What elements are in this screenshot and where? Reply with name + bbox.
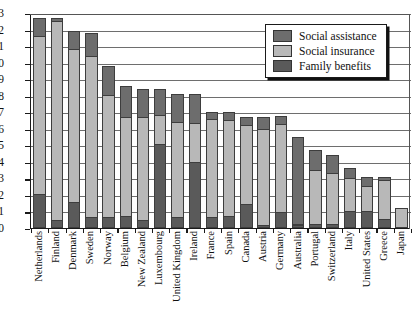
x-tick-label: Portugal bbox=[310, 231, 321, 267]
y-tick-label: 5 bbox=[0, 140, 4, 152]
x-tick-label: United States bbox=[361, 231, 372, 287]
y-tick-label: 6 bbox=[0, 124, 4, 136]
x-tick-label: New Zealand bbox=[137, 231, 148, 287]
x-tick-label: Italy bbox=[344, 231, 355, 250]
y-tick-label: 0 bbox=[0, 223, 4, 235]
x-label-slot: Sweden bbox=[82, 231, 99, 331]
y-tick-label: 8 bbox=[0, 91, 4, 103]
y-tick-mark bbox=[25, 14, 30, 15]
y-tick-label: 7 bbox=[0, 107, 4, 119]
x-label-slot: Norway bbox=[99, 231, 116, 331]
y-tick-label: 2 bbox=[0, 190, 4, 202]
y-tick-label: 4 bbox=[0, 157, 4, 169]
legend-item[interactable]: Social insurance bbox=[273, 45, 377, 57]
x-label-slot: Italy bbox=[341, 231, 358, 331]
x-tick-label: Netherlands bbox=[33, 231, 44, 282]
y-tick-label: 11 bbox=[0, 41, 4, 53]
y-tick-label: 13 bbox=[0, 8, 4, 20]
legend-label: Social assistance bbox=[299, 30, 377, 42]
x-tick-label: Austria bbox=[258, 231, 269, 262]
y-tick-mark bbox=[25, 212, 30, 213]
x-label-slot: Spain bbox=[220, 231, 237, 331]
x-label-slot: Austria bbox=[254, 231, 271, 331]
y-tick-label: 12 bbox=[0, 25, 4, 37]
x-tick-label: Australia bbox=[292, 231, 303, 270]
x-label-slot: New Zealand bbox=[134, 231, 151, 331]
x-tick-label: Belgium bbox=[120, 231, 131, 267]
x-tick-label: France bbox=[206, 231, 217, 260]
y-tick-label: 3 bbox=[0, 173, 4, 185]
x-label-slot: Netherlands bbox=[30, 231, 47, 331]
x-label-slot: United States bbox=[358, 231, 375, 331]
legend-item[interactable]: Social assistance bbox=[273, 30, 377, 42]
x-tick-label: Switzerland bbox=[327, 231, 338, 281]
y-tick-mark bbox=[25, 130, 30, 131]
x-tick-label: United Kingdom bbox=[172, 231, 183, 302]
legend-swatch bbox=[273, 60, 292, 72]
y-tick-label: 10 bbox=[0, 58, 4, 70]
legend-label: Social insurance bbox=[299, 45, 375, 57]
y-tick-mark bbox=[25, 47, 30, 48]
x-tick-label: Spain bbox=[223, 231, 234, 255]
x-tick-label: Canada bbox=[241, 231, 252, 263]
x-label-slot: Canada bbox=[237, 231, 254, 331]
x-label-slot: Switzerland bbox=[324, 231, 341, 331]
x-tick-label: Germany bbox=[275, 231, 286, 270]
x-label-slot: Ireland bbox=[185, 231, 202, 331]
chart-legend: Social assistanceSocial insuranceFamily … bbox=[265, 24, 387, 78]
legend-item[interactable]: Family benefits bbox=[273, 60, 377, 72]
x-tick-label: Denmark bbox=[68, 231, 79, 270]
x-label-slot: Denmark bbox=[65, 231, 82, 331]
x-label-slot: Greece bbox=[375, 231, 392, 331]
y-tick-mark bbox=[25, 31, 30, 32]
y-tick-mark bbox=[25, 80, 30, 81]
y-tick-mark bbox=[25, 196, 30, 197]
chart-figure: 012345678910111213 NetherlandsFinlandDen… bbox=[0, 0, 417, 331]
y-tick-label: 9 bbox=[0, 74, 4, 86]
legend-swatch bbox=[273, 30, 292, 42]
x-tick-label: Sweden bbox=[85, 231, 96, 264]
x-label-slot: Australia bbox=[289, 231, 306, 331]
x-tick-label: Ireland bbox=[189, 231, 200, 261]
y-tick-label: 1 bbox=[0, 206, 4, 218]
y-tick-mark bbox=[25, 113, 30, 114]
x-label-slot: Belgium bbox=[116, 231, 133, 331]
x-label-slot: Japan bbox=[393, 231, 410, 331]
y-tick-mark bbox=[25, 163, 30, 164]
x-tick-label: Greece bbox=[379, 231, 390, 261]
x-label-slot: France bbox=[203, 231, 220, 331]
y-tick-mark bbox=[25, 64, 30, 65]
y-tick-mark bbox=[25, 97, 30, 98]
y-tick-mark bbox=[25, 146, 30, 147]
y-tick-mark bbox=[25, 229, 30, 230]
legend-swatch bbox=[273, 45, 292, 57]
x-tick-label: Luxembourg bbox=[154, 231, 165, 285]
y-tick-mark bbox=[25, 179, 30, 180]
x-label-slot: Luxembourg bbox=[151, 231, 168, 331]
x-axis-labels: NetherlandsFinlandDenmarkSwedenNorwayBel… bbox=[30, 231, 410, 331]
x-label-slot: Portugal bbox=[306, 231, 323, 331]
x-label-slot: Germany bbox=[272, 231, 289, 331]
x-tick-label: Japan bbox=[396, 231, 407, 255]
x-tick-label: Finland bbox=[51, 231, 62, 263]
x-label-slot: United Kingdom bbox=[168, 231, 185, 331]
legend-label: Family benefits bbox=[299, 60, 371, 72]
x-label-slot: Finland bbox=[47, 231, 64, 331]
x-tick-label: Norway bbox=[102, 231, 113, 265]
